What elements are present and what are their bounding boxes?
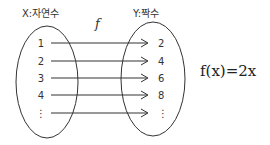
codomain-value: 2 [158, 38, 164, 49]
codomain-value: 4 [158, 56, 164, 67]
codomain-value: 8 [158, 90, 164, 101]
domain-value: ⋮ [36, 108, 46, 119]
codomain-value: 6 [158, 73, 164, 84]
domain-value: 4 [38, 90, 44, 101]
mapping-diagram: X:자연수 Y:짝수 f 12243648⋮⋮ f(x)=2x [0, 0, 270, 145]
function-formula: f(x)=2x [200, 62, 257, 80]
codomain-value: ⋮ [158, 108, 168, 119]
domain-value: 3 [38, 73, 44, 84]
function-name: f [94, 16, 102, 31]
domain-value: 2 [38, 56, 44, 67]
domain-value: 1 [38, 38, 44, 49]
domain-label: X:자연수 [22, 8, 59, 19]
codomain-label: Y:짝수 [132, 8, 159, 19]
mapping-rows: 12243648⋮⋮ [36, 38, 168, 119]
codomain-set-ellipse [121, 22, 185, 136]
